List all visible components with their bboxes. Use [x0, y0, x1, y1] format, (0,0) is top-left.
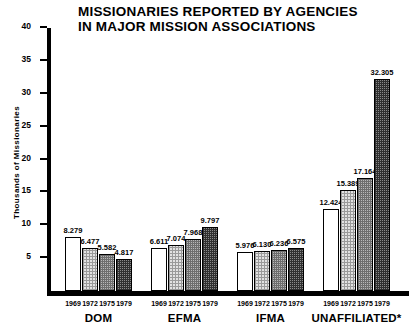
- x-tick-label-year: 1979: [112, 300, 136, 308]
- bar: [340, 190, 356, 291]
- y-tick-label: 5: [26, 252, 31, 260]
- y-tick-label: 20: [22, 154, 31, 162]
- x-axis-group-label: UNAFFILIATED*: [309, 312, 404, 324]
- y-axis-title: Thousands of Missionaries: [12, 78, 21, 248]
- x-tick-label-year: 1979: [370, 300, 394, 308]
- bar: [237, 252, 253, 291]
- bar: [151, 248, 167, 291]
- y-tick-10: 10: [40, 223, 47, 225]
- bar-value-label: 32.305: [368, 69, 396, 77]
- chart-figure: MISSIONARIES REPORTED BY AGENCIES IN MAJ…: [0, 0, 414, 325]
- x-axis-group-label: DOM: [51, 312, 146, 324]
- y-tick-30: 30: [40, 92, 47, 94]
- bar: [288, 248, 304, 291]
- bar-value-label: 8.279: [59, 227, 87, 235]
- bar: [254, 251, 270, 291]
- y-axis-line: [47, 28, 51, 291]
- bar: [323, 209, 339, 291]
- bar: [168, 245, 184, 292]
- bar-value-label: 9.797: [196, 217, 224, 225]
- x-tick-label-year: 1979: [284, 300, 308, 308]
- bar: [202, 227, 218, 291]
- y-tick-35: 35: [40, 59, 47, 61]
- y-tick-label: 35: [22, 55, 31, 63]
- y-tick-label: 10: [22, 219, 31, 227]
- bar: [374, 79, 390, 291]
- x-tick-label-year: 1979: [198, 300, 222, 308]
- y-tick-label: 40: [22, 22, 31, 30]
- bar: [116, 259, 132, 291]
- y-tick-label: 15: [22, 186, 31, 194]
- y-tick-label: 25: [22, 121, 31, 129]
- bar: [82, 248, 98, 291]
- bar: [271, 250, 287, 291]
- x-axis-group-label: IFMA: [223, 312, 318, 324]
- plot-area: 403530252015105 8.2796.4775.5824.8176.61…: [47, 28, 407, 291]
- y-tick-20: 20: [40, 158, 47, 160]
- y-tick-25: 25: [40, 125, 47, 127]
- bar-value-label: 4.817: [110, 249, 138, 257]
- y-tick-label: 30: [22, 88, 31, 96]
- y-tick-40: 40: [40, 26, 47, 28]
- chart-title-line-1: MISSIONARIES REPORTED BY AGENCIES: [78, 4, 408, 19]
- y-tick-5: 5: [40, 256, 47, 258]
- bar: [357, 178, 373, 291]
- bar: [99, 254, 115, 291]
- bar: [185, 239, 201, 291]
- x-axis-line: [47, 291, 409, 296]
- bar-value-label: 6.575: [282, 238, 310, 246]
- y-tick-15: 15: [40, 190, 47, 192]
- x-axis-group-label: EFMA: [137, 312, 232, 324]
